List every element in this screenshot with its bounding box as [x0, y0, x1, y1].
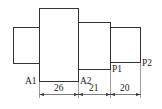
large-section [40, 9, 79, 82]
dimension-label-3: 20 [120, 83, 130, 93]
dimension-label-1: 26 [54, 83, 64, 93]
point-label-a1: A1 [25, 76, 37, 86]
point-label-p1: P1 [112, 64, 122, 74]
stepped-shaft-diagram: A1 A2 P1 P2 26 21 20 [0, 0, 162, 109]
dimension-label-2: 21 [89, 83, 99, 93]
left-stub [14, 28, 40, 64]
point-label-p2: P2 [142, 58, 152, 68]
middle-section [79, 23, 111, 70]
right-section [111, 28, 141, 63]
